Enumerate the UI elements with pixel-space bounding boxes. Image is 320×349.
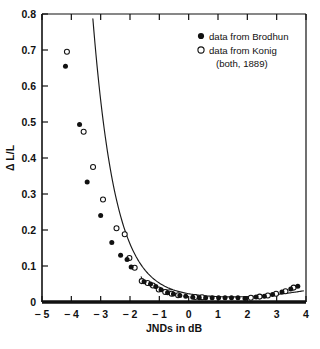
- data-point-filled: [279, 289, 284, 294]
- data-point-filled: [197, 295, 202, 300]
- data-point-filled: [190, 295, 195, 300]
- data-point-open: [122, 232, 127, 237]
- data-point-filled: [171, 292, 176, 297]
- series-data-from-brodhun: [63, 64, 300, 301]
- x-tick-label: 3: [274, 308, 280, 320]
- data-point-filled: [229, 295, 234, 300]
- data-point-filled: [118, 253, 123, 258]
- fitted-curve: [93, 19, 303, 297]
- y-tick-label: 0.3: [21, 188, 36, 200]
- data-point-filled: [142, 279, 147, 284]
- x-tick-label: − 3: [93, 308, 108, 320]
- data-point-filled: [235, 295, 240, 300]
- data-point-filled: [63, 64, 68, 69]
- data-point-filled: [177, 293, 182, 298]
- y-tick-label: 0: [30, 296, 36, 308]
- data-point-filled: [210, 295, 215, 300]
- x-axis-tick-labels: − 5− 4− 3− 2− 101234: [35, 308, 310, 320]
- data-point-filled: [270, 292, 275, 297]
- data-point-filled: [295, 284, 300, 289]
- data-point-filled: [125, 257, 130, 262]
- data-point-open: [91, 165, 96, 170]
- x-axis-title: JNDs in dB: [146, 322, 202, 334]
- data-point-filled: [216, 295, 221, 300]
- y-tick-label: 0.6: [21, 80, 36, 92]
- data-point-filled: [85, 180, 90, 185]
- data-point-filled: [129, 265, 134, 270]
- data-point-filled: [148, 282, 153, 287]
- y-axis-tick-labels: 00.10.20.30.40.50.60.70.8: [21, 8, 36, 308]
- data-point-filled: [77, 122, 82, 127]
- x-tick-label: − 5: [35, 308, 50, 320]
- x-tick-label: 4: [303, 308, 309, 320]
- data-point-filled: [262, 294, 267, 299]
- legend-label-konig: data from Konig: [209, 45, 277, 56]
- data-point-filled: [203, 295, 208, 300]
- y-tick-label: 0.7: [21, 44, 36, 56]
- legend-label-brodhun: data from Brodhun: [209, 31, 288, 42]
- data-point-filled: [98, 213, 103, 218]
- y-tick-label: 0.8: [21, 8, 36, 20]
- x-tick-label: − 1: [152, 308, 167, 320]
- data-point-filled: [242, 296, 247, 301]
- legend-filled-circle-icon: [198, 33, 204, 39]
- figure-container: − 5− 4− 3− 2− 101234 00.10.20.30.40.50.6…: [0, 0, 320, 349]
- data-point-filled: [288, 287, 293, 292]
- data-point-open: [114, 226, 119, 231]
- x-tick-label: − 2: [123, 308, 138, 320]
- legend-label-both-year: (both, 1889): [216, 58, 268, 69]
- delta-l-over-l-scatter-chart: − 5− 4− 3− 2− 101234 00.10.20.30.40.50.6…: [0, 0, 320, 349]
- data-point-open: [248, 295, 253, 300]
- data-point-open: [101, 197, 106, 202]
- x-tick-label: 1: [215, 308, 221, 320]
- x-tick-label: 2: [244, 308, 250, 320]
- y-tick-label: 0.2: [21, 224, 36, 236]
- data-point-filled: [254, 294, 259, 299]
- fitted-curve-path: [93, 19, 303, 297]
- x-tick-label: 0: [186, 308, 192, 320]
- y-tick-label: 0.5: [21, 116, 36, 128]
- data-point-open: [81, 129, 86, 134]
- data-point-filled: [165, 290, 170, 295]
- y-tick-label: 0.4: [21, 152, 36, 164]
- legend: data from Brodhun data from Konig (both,…: [198, 31, 289, 69]
- y-axis-ticks: [42, 14, 48, 302]
- data-point-filled: [183, 294, 188, 299]
- data-point-filled: [223, 295, 228, 300]
- data-point-filled: [159, 287, 164, 292]
- y-axis-title: Δ L/L: [4, 144, 16, 171]
- y-tick-label: 0.1: [21, 260, 36, 272]
- data-point-filled: [109, 240, 114, 245]
- data-point-open: [64, 49, 69, 54]
- legend-open-circle-icon: [198, 47, 204, 53]
- data-point-filled: [153, 284, 158, 289]
- x-tick-label: − 4: [64, 308, 79, 320]
